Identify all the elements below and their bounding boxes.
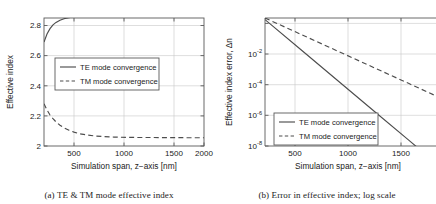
y-tick-a-1: 2.2: [30, 112, 42, 121]
y-tick-b-0: 10-8: [248, 140, 262, 150]
series-tm-b: [265, 18, 436, 96]
y-tick-a-4: 2.8: [30, 21, 42, 30]
legend-label-te-b: TE mode convergence: [299, 118, 375, 127]
y-tick-b-3: 10-2: [248, 48, 262, 58]
legend-a: TE mode convergence TM mode convergence: [55, 58, 159, 90]
y-tick-a-3: 2.6: [30, 51, 42, 60]
x-tick-a-3: 2000: [195, 149, 213, 158]
x-tick-labels-b: 500 1000 1500: [288, 149, 410, 158]
chart-a-svg: TE mode convergence TM mode convergence …: [0, 0, 218, 176]
x-axis-title-b: Simulation span, z−axis [nm]: [295, 161, 401, 171]
x-tick-a-1: 1000: [115, 149, 133, 158]
y-tick-b-1: 10-6: [248, 110, 262, 120]
caption-b: (b) Error in effective index; log scale: [218, 190, 436, 200]
caption-a: (a) TE & TM mode effective index: [0, 190, 218, 200]
y-tick-b-2: 10-4: [248, 79, 262, 89]
figure-container: TE mode convergence TM mode convergence …: [0, 0, 436, 204]
legend-b: TE mode convergence TM mode convergence: [274, 113, 378, 145]
legend-label-tm-b: TM mode convergence: [299, 132, 377, 141]
x-axis-title-a: Simulation span, z−axis [nm]: [71, 161, 177, 171]
x-tick-b-1: 1000: [339, 149, 357, 158]
y-tick-b-1-exp: -6: [257, 110, 262, 116]
x-tick-a-2: 1500: [165, 149, 183, 158]
y-tick-b-3-exp: -2: [257, 48, 262, 54]
chart-b-svg: TE mode convergence TM mode convergence …: [218, 0, 436, 176]
y-tick-b-2-exp: -4: [257, 79, 262, 85]
x-tick-b-0: 500: [288, 149, 302, 158]
y-tick-a-2: 2.4: [30, 82, 42, 91]
subfigure-b: TE mode convergence TM mode convergence …: [218, 0, 436, 204]
y-tick-b-0-exp: -8: [257, 140, 262, 146]
legend-label-tm-a: TM mode convergence: [80, 77, 158, 86]
y-axis-title-a: Effective index: [5, 54, 15, 109]
y-tick-a-0: 2: [37, 142, 42, 151]
x-tick-a-0: 500: [67, 149, 81, 158]
x-tick-labels-a: 500 1000 1500 2000: [67, 149, 213, 158]
subfigure-a: TE mode convergence TM mode convergence …: [0, 0, 218, 204]
y-tick-labels-b: 10-8 10-6 10-4 10-2: [248, 48, 262, 150]
y-axis-title-b: Effective index error, Δn: [224, 38, 234, 126]
legend-label-te-a: TE mode convergence: [80, 63, 156, 72]
y-tick-labels-a: 2 2.2 2.4 2.6 2.8: [30, 21, 42, 151]
x-tick-b-2: 1500: [392, 149, 410, 158]
